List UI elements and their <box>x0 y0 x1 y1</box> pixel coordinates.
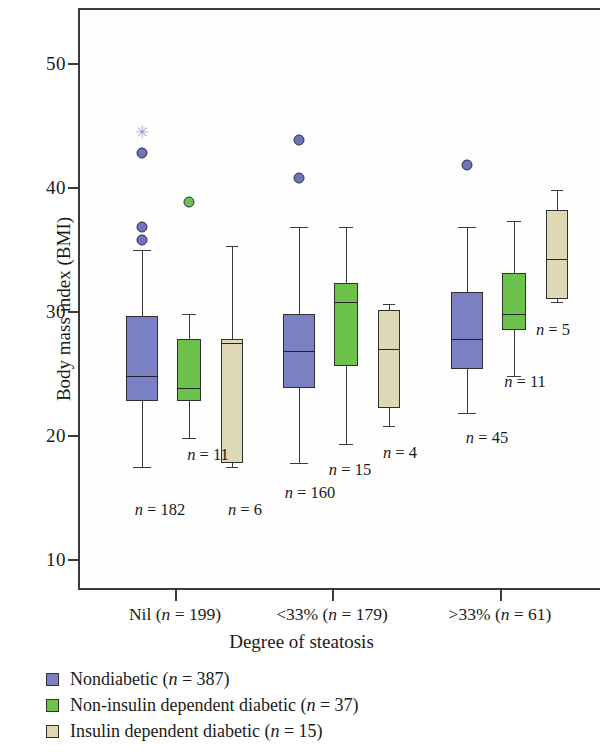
y-tick-mark <box>68 187 79 189</box>
y-tick-label: 50 <box>26 53 66 75</box>
legend-swatch-green <box>46 699 59 712</box>
n-count-label: n = 11 <box>187 445 229 465</box>
whisker-cap-lower <box>551 302 563 303</box>
legend: Nondiabetic (n = 387)Non-insulin depende… <box>46 666 586 744</box>
box <box>451 292 483 369</box>
x-tick-mark <box>500 590 502 601</box>
n-count-label: n = 11 <box>504 372 546 392</box>
box <box>177 339 201 401</box>
legend-label: Nondiabetic (n = 387) <box>70 669 230 690</box>
outlier-point <box>137 234 148 245</box>
outlier-point <box>184 197 195 208</box>
median-line <box>221 343 243 344</box>
x-tick-mark <box>332 590 334 601</box>
outlier-point <box>137 222 148 233</box>
y-tick-label: 10 <box>26 549 66 571</box>
n-count-label: n = 182 <box>135 500 186 520</box>
boxplot-figure: Body mass index (BMI) ✳ 5040302010Nil (n… <box>0 0 603 756</box>
median-line <box>502 314 526 315</box>
n-count-label: n = 15 <box>329 460 371 480</box>
whisker-cap-upper <box>133 250 151 251</box>
x-tick-label: <33% (n = 179) <box>276 604 388 625</box>
median-line <box>283 351 315 352</box>
y-tick-label: 40 <box>26 177 66 199</box>
whisker-cap-upper <box>551 190 563 191</box>
box <box>126 316 158 400</box>
n-count-label: n = 6 <box>228 500 262 520</box>
median-line <box>334 302 358 303</box>
legend-item: Insulin dependent diabetic (n = 15) <box>46 718 586 744</box>
n-count-label: n = 4 <box>383 443 417 463</box>
whisker-cap-lower <box>290 463 308 464</box>
extreme-outlier-marker: ✳ <box>135 123 149 140</box>
box <box>546 210 568 299</box>
whisker-cap-upper <box>339 227 352 228</box>
whisker-cap-lower <box>182 438 195 439</box>
legend-label: Insulin dependent diabetic (n = 15) <box>70 721 323 742</box>
box <box>378 310 400 408</box>
median-line <box>451 339 483 340</box>
box <box>502 273 526 330</box>
y-tick-mark <box>68 559 79 561</box>
y-tick-label: 20 <box>26 425 66 447</box>
y-tick-mark <box>68 311 79 313</box>
whisker-cap-upper <box>458 227 476 228</box>
x-tick-mark <box>175 590 177 601</box>
whisker-cap-upper <box>182 314 195 315</box>
n-count-label: n = 45 <box>466 428 508 448</box>
whisker-cap-lower <box>383 426 395 427</box>
legend-swatch-blue <box>46 673 59 686</box>
outlier-point <box>462 160 473 171</box>
whisker-cap-lower <box>226 467 238 468</box>
whisker-cap-lower <box>458 413 476 414</box>
whisker-cap-lower <box>133 467 151 468</box>
whisker-cap-upper <box>383 304 395 305</box>
outlier-point <box>294 172 305 183</box>
median-line <box>546 259 568 260</box>
y-tick-label: 30 <box>26 301 66 323</box>
whisker-cap-upper <box>290 227 308 228</box>
box <box>334 283 358 366</box>
whisker-cap-upper <box>226 246 238 247</box>
legend-label: Non-insulin dependent diabetic (n = 37) <box>70 695 359 716</box>
outlier-point <box>137 147 148 158</box>
y-tick-mark <box>68 435 79 437</box>
median-line <box>126 376 158 377</box>
x-tick-label: Nil (n = 199) <box>129 604 221 625</box>
y-tick-mark <box>68 63 79 65</box>
n-count-label: n = 5 <box>536 320 570 340</box>
whisker-cap-upper <box>507 221 520 222</box>
median-line <box>378 349 400 350</box>
legend-swatch-beige <box>46 725 59 738</box>
legend-item: Nondiabetic (n = 387) <box>46 666 586 692</box>
median-line <box>177 388 201 389</box>
whisker-cap-lower <box>339 444 352 445</box>
x-tick-label: >33% (n = 61) <box>449 604 552 625</box>
legend-item: Non-insulin dependent diabetic (n = 37) <box>46 692 586 718</box>
outlier-point <box>294 135 305 146</box>
n-count-label: n = 160 <box>285 483 336 503</box>
x-axis-label: Degree of steatosis <box>0 631 603 653</box>
